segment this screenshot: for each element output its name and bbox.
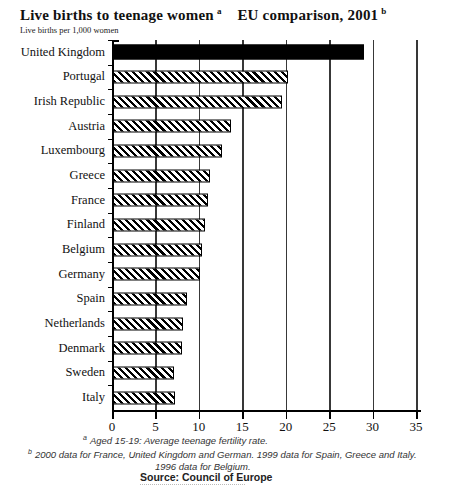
category-label: Belgium (20, 242, 112, 257)
bar-track (112, 385, 420, 410)
footnote-marker-a-title: a (217, 6, 222, 16)
bar-track (112, 262, 420, 287)
bar-track (112, 336, 420, 361)
category-label: Portugal (20, 69, 112, 84)
footnote-b: b2000 data for France, United Kingdom an… (28, 448, 417, 460)
bar-track (112, 139, 420, 164)
x-tick-label-5: 5 (152, 419, 159, 435)
chart-row: France (20, 188, 432, 213)
category-label: Irish Republic (20, 94, 112, 109)
x-tick-30 (373, 412, 375, 419)
x-tick-label-35: 35 (410, 419, 423, 435)
bar-track (112, 65, 420, 90)
bar-track (112, 311, 420, 336)
category-label: Greece (20, 168, 112, 183)
x-tick-label-30: 30 (366, 419, 379, 435)
chart-row: Spain (20, 287, 432, 312)
chart-row: Irish Republic (20, 89, 432, 114)
footnote-a: aAged 15-19: Average teenage fertility r… (83, 434, 268, 446)
title-main: Live births to teenage women (20, 7, 214, 23)
footnote-marker-b-title: b (381, 6, 386, 16)
bar-denmark (113, 342, 182, 355)
category-label: Luxembourg (20, 143, 112, 158)
bar-track (112, 361, 420, 386)
bar-track (112, 163, 420, 188)
bar-germany (113, 268, 200, 281)
bar-greece (113, 169, 210, 182)
bar-chart: United KingdomPortugalIrish RepublicAust… (20, 40, 432, 440)
chart-row: United Kingdom (20, 40, 432, 65)
x-tick-label-15: 15 (236, 419, 249, 435)
bar-track (112, 89, 420, 114)
x-tick-label-20: 20 (279, 419, 292, 435)
category-label: France (20, 193, 112, 208)
chart-row: Germany (20, 262, 432, 287)
chart-rows: United KingdomPortugalIrish RepublicAust… (20, 40, 432, 410)
chart-row: Austria (20, 114, 432, 139)
bar-finland (113, 218, 205, 231)
bar-italy (113, 391, 175, 404)
footnote-a-text: Aged 15-19: Average teenage fertility ra… (90, 435, 268, 446)
title-comparison: EU comparison, 2001 (237, 7, 378, 23)
x-tick-25 (329, 412, 331, 419)
chart-row: Denmark (20, 336, 432, 361)
bar-sweden (113, 366, 174, 379)
scan-artifact-line (140, 484, 245, 485)
bar-austria (113, 120, 231, 133)
bar-track (112, 287, 420, 312)
bar-track (112, 237, 420, 262)
footnote-a-marker: a (83, 434, 87, 441)
chart-row: Finland (20, 213, 432, 238)
chart-title: Live births to teenage womenaEU comparis… (20, 6, 386, 24)
bar-france (113, 194, 208, 207)
category-label: Austria (20, 119, 112, 134)
category-label: Sweden (20, 365, 112, 380)
bar-track (112, 213, 420, 238)
x-tick-label-10: 10 (192, 419, 205, 435)
chart-row: Greece (20, 163, 432, 188)
chart-row: Belgium (20, 237, 432, 262)
footnote-b-marker: b (28, 448, 32, 455)
category-label: Netherlands (20, 316, 112, 331)
bar-irish-republic (113, 95, 282, 108)
category-label: Denmark (20, 341, 112, 356)
bar-portugal (113, 70, 288, 83)
bar-luxembourg (113, 144, 222, 157)
x-tick-20 (286, 412, 288, 419)
chart-subtitle: Live births per 1,000 women (20, 25, 118, 35)
category-label: Germany (20, 267, 112, 282)
footnote-b-text: 2000 data for France, United Kingdom and… (35, 449, 417, 460)
category-label: United Kingdom (20, 45, 112, 60)
x-tick-10 (199, 412, 201, 419)
x-tick-35 (416, 412, 418, 419)
x-tick-0 (112, 412, 114, 419)
page: Live births to teenage womenaEU comparis… (0, 0, 453, 496)
chart-row: Portugal (20, 65, 432, 90)
bar-track (112, 40, 420, 65)
bar-belgium (113, 243, 202, 256)
chart-row: Italy (20, 385, 432, 410)
x-tick-5 (155, 412, 157, 419)
bar-netherlands (113, 317, 183, 330)
x-tick-15 (242, 412, 244, 419)
bar-track (112, 188, 420, 213)
bar-track (112, 114, 420, 139)
chart-row: Luxembourg (20, 139, 432, 164)
chart-row: Sweden (20, 361, 432, 386)
source-label: Source: Council of Europe (140, 471, 272, 483)
bar-spain (113, 292, 187, 305)
x-tick-label-25: 25 (323, 419, 336, 435)
bar-united-kingdom (113, 45, 364, 60)
category-label: Italy (20, 390, 112, 405)
category-label: Finland (20, 217, 112, 232)
chart-row: Netherlands (20, 311, 432, 336)
category-label: Spain (20, 291, 112, 306)
x-tick-label-0: 0 (109, 419, 116, 435)
